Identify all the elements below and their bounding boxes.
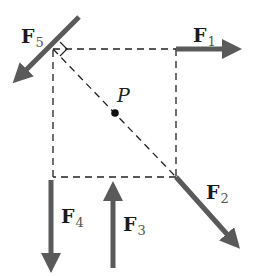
label-f4: F4 [61, 207, 84, 229]
label-f5: F5 [21, 27, 44, 49]
label-f2: F2 [206, 183, 229, 205]
label-f1: F1 [193, 26, 216, 48]
label-f3: F3 [123, 215, 146, 237]
label-p: P [117, 86, 130, 105]
point-p [111, 109, 119, 117]
